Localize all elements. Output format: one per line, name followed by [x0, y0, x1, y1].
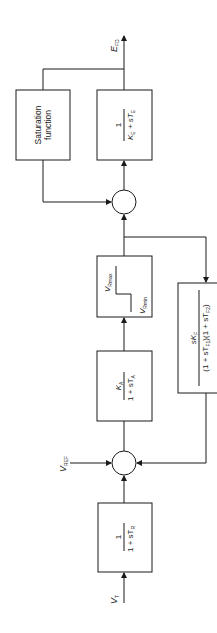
- svg-text:1: 1: [114, 122, 123, 127]
- limiter-block: VRmax VRmin: [97, 256, 152, 317]
- stabilizer-block: sKF (1 + sTF1)(1 + sTF2): [178, 283, 217, 393]
- efd-output-label: EFD: [109, 39, 120, 52]
- svg-text:Saturation: Saturation: [33, 105, 43, 144]
- saturation-to-sum-line: [43, 160, 111, 202]
- vt-input-signal: VT: [109, 573, 124, 604]
- transducer-block: 1 1 + sTR: [98, 503, 152, 572]
- svg-text:1: 1: [114, 534, 123, 539]
- svg-text:(1 + sTF1)(1 + sTF2): (1 + sTF1)(1 + sTF2): [201, 304, 211, 372]
- efd-to-saturation-line: [43, 69, 124, 90]
- saturation-function-block: Saturation function: [16, 90, 70, 160]
- svg-text:KE + sTE: KE + sTE: [126, 109, 136, 140]
- svg-text:VT: VT: [109, 595, 120, 604]
- excitation-system-block-diagram: VT 1 1 + sTR VREF KA 1 + sTA VRmax VRmin: [0, 0, 217, 633]
- summing-junction-lower: [112, 451, 136, 475]
- summing-junction-upper: [112, 190, 136, 214]
- regulator-block: KA 1 + sTA: [97, 351, 152, 421]
- svg-text:function: function: [43, 110, 53, 140]
- vref-input-signal: VREF: [58, 456, 111, 472]
- svg-text:VREF: VREF: [58, 456, 69, 472]
- exciter-block: 1 KE + sTE: [97, 90, 152, 160]
